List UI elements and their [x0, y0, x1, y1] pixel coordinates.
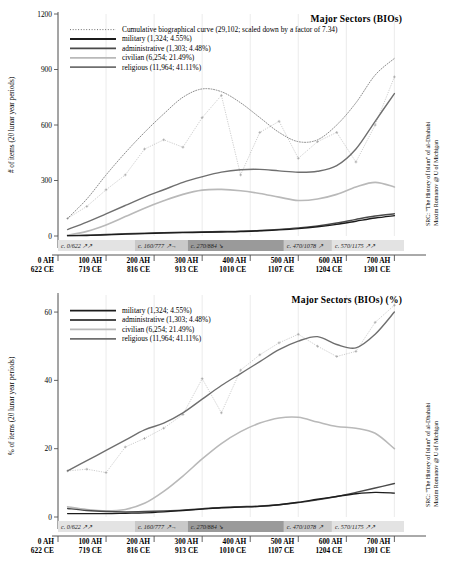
period-band-label: c. 270/884 ↘ [191, 523, 224, 530]
x-tick-ce: 1204 CE [315, 265, 342, 274]
source-line-1: SRC: "The History of Islam" of al-Dhahab… [425, 402, 431, 507]
legend-label: military (1,324; 4.55%) [122, 34, 192, 43]
chart-title: Major Sectors (BIOs) [311, 14, 402, 25]
grid-lines [58, 295, 394, 517]
y-tick-label: 600 [41, 121, 52, 130]
x-tick-ah: 200 AH [126, 256, 150, 265]
x-tick-ah: 600 AH [319, 537, 343, 546]
x-tick-ah: 100 AH [78, 256, 102, 265]
x-tick-ce: 913 CE [175, 546, 198, 555]
legend-label: religious (11,964; 41.11%) [122, 63, 202, 72]
x-tick-ce: 816 CE [127, 546, 150, 555]
series-civilian [68, 417, 395, 511]
legend-label: civilian (6,254; 21.49%) [122, 53, 195, 62]
series-military [68, 216, 395, 236]
x-tick-ce: 1301 CE [363, 265, 390, 274]
legend-label: Cumulative biographical curve (29,102; s… [122, 25, 338, 34]
source-line-2: Maxim Romanov @ U of Michigan [433, 421, 439, 507]
x-tick-ah: 300 AH [175, 256, 199, 265]
x-tick-ce: 1301 CE [363, 546, 390, 555]
chart-panel-bottom: 0204060% of items (20 lunar year periods… [0, 281, 462, 561]
chart-svg-bottom: 0204060% of items (20 lunar year periods… [0, 281, 462, 561]
x-tick-ce: 1107 CE [268, 265, 295, 274]
grid-lines [58, 14, 394, 236]
period-band-label: c. 270/884 ↘ [191, 242, 224, 249]
x-tick-ah: 500 AH [271, 537, 295, 546]
y-tick-label: 0 [48, 232, 52, 241]
x-tick-ce: 1010 CE [219, 265, 246, 274]
source-line-2: Maxim Romanov @ U of Michigan [433, 140, 439, 226]
period-band-label: c. 470/1078 ↗ [287, 242, 324, 249]
y-tick-label: 20 [45, 444, 53, 453]
x-tick-ce: 622 CE [31, 546, 54, 555]
period-bands: c. 0/622 ↗↗c. 160/777 ↗→c. 270/884 ↘c. 4… [58, 521, 404, 532]
x-tick-ce: 719 CE [79, 546, 102, 555]
x-axis: 0 AH622 CE100 AH719 CE200 AH816 CE300 AH… [31, 255, 426, 274]
period-band-label: c. 0/622 ↗↗ [61, 242, 93, 249]
y-tick-label: 40 [45, 376, 53, 385]
y-tick-label: 900 [41, 65, 52, 74]
y-axis-label: # of items (20 lunar year periods) [8, 76, 16, 173]
legend-label: administrative (1,303; 4.48%) [122, 315, 211, 324]
y-tick-label: 60 [45, 308, 53, 317]
period-band-label: c. 570/1175 ↗↗ [335, 242, 376, 249]
y-tick-label: 1200 [37, 10, 52, 19]
series-religious [68, 94, 395, 230]
x-tick-ah: 200 AH [126, 537, 150, 546]
x-tick-ah: 0 AH [38, 256, 54, 265]
chart-svg-top: 03006009001200# of items (20 lunar year … [0, 0, 462, 280]
x-tick-ah: 100 AH [78, 537, 102, 546]
legend-label: civilian (6,254; 21.49%) [122, 325, 195, 334]
x-tick-ah: 400 AH [223, 256, 247, 265]
series-cumulative [68, 58, 395, 218]
x-tick-ce: 1204 CE [315, 546, 342, 555]
legend-label: military (1,324; 4.55%) [122, 306, 192, 315]
x-tick-ah: 400 AH [223, 537, 247, 546]
x-tick-ce: 913 CE [175, 265, 198, 274]
legend: Cumulative biographical curve (29,102; s… [70, 25, 338, 72]
period-band-label: c. 470/1078 ↗ [287, 523, 324, 530]
legend: military (1,324; 4.55%)administrative (1… [70, 306, 211, 343]
chart-title: Major Sectors (BIOs) (%) [292, 295, 402, 306]
figure-root: 03006009001200# of items (20 lunar year … [0, 0, 462, 561]
period-band-label: c. 160/777 ↗→ [138, 523, 177, 530]
y-tick-label: 300 [41, 176, 52, 185]
source-line-1: SRC: "The History of Islam" of al-Dhahab… [425, 121, 431, 226]
x-tick-ah: 300 AH [175, 537, 199, 546]
x-tick-ce: 1107 CE [268, 546, 295, 555]
period-band-label: c. 570/1175 ↗↗ [335, 523, 376, 530]
x-tick-ah: 500 AH [271, 256, 295, 265]
legend-label: administrative (1,303; 4.48%) [122, 44, 211, 53]
y-axis: 03006009001200 [37, 10, 58, 248]
period-band-label: c. 160/777 ↗→ [138, 242, 177, 249]
x-tick-ce: 622 CE [31, 265, 54, 274]
x-tick-ah: 0 AH [38, 537, 54, 546]
x-tick-ah: 700 AH [367, 537, 391, 546]
chart-panel-top: 03006009001200# of items (20 lunar year … [0, 0, 462, 280]
x-tick-ce: 816 CE [127, 265, 150, 274]
x-tick-ce: 719 CE [79, 265, 102, 274]
x-tick-ah: 600 AH [319, 256, 343, 265]
legend-label: religious (11,964; 41.11%) [122, 334, 202, 343]
y-axis-label: % of items (20 lunar year periods) [8, 356, 16, 455]
period-bands: c. 0/622 ↗↗c. 160/777 ↗→c. 270/884 ↘c. 4… [58, 240, 404, 251]
period-band-label: c. 0/622 ↗↗ [61, 523, 93, 530]
x-tick-ah: 700 AH [367, 256, 391, 265]
y-axis: 0204060 [45, 293, 58, 529]
y-tick-label: 0 [48, 513, 52, 522]
x-axis: 0 AH622 CE100 AH719 CE200 AH816 CE300 AH… [31, 536, 426, 555]
x-tick-ce: 1010 CE [219, 546, 246, 555]
